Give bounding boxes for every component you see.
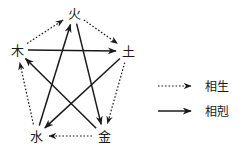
element-node-metal: 金 bbox=[98, 129, 111, 144]
element-node-fire: 火 bbox=[68, 6, 81, 21]
generating-cycle-group bbox=[20, 20, 125, 136]
edge-wood-to-fire bbox=[27, 20, 63, 43]
legend-group: 相生 相剋 bbox=[158, 80, 229, 119]
legend-label-generating: 相生 bbox=[205, 80, 229, 94]
edge-water-to-wood bbox=[20, 63, 34, 125]
element-node-wood: 木 bbox=[11, 43, 24, 58]
edge-fire-to-earth bbox=[84, 20, 118, 44]
edge-fire-to-metal bbox=[77, 24, 102, 125]
edge-wood-to-earth bbox=[28, 50, 116, 51]
legend-label-overcoming: 相剋 bbox=[205, 105, 229, 119]
element-nodes-group: 火土金水木 bbox=[8, 4, 138, 146]
edge-water-to-fire bbox=[39, 24, 70, 125]
edge-earth-to-metal bbox=[108, 63, 125, 124]
wuxing-diagram-svg: 火土金水木 相生 相剋 bbox=[0, 0, 245, 156]
element-node-water: 水 bbox=[30, 129, 43, 144]
wuxing-diagram-canvas: 火土金水木 相生 相剋 bbox=[0, 0, 245, 156]
element-node-earth: 土 bbox=[122, 44, 135, 59]
overcoming-cycle-group bbox=[26, 24, 120, 129]
edge-metal-to-wood bbox=[26, 58, 97, 128]
